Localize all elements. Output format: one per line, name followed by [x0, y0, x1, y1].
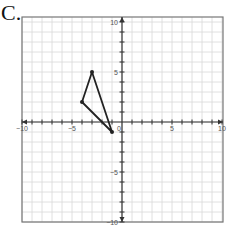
vertex-point [80, 100, 84, 104]
x-tick-label: −5 [68, 125, 76, 132]
vertex-point [90, 70, 94, 74]
y-tick-label: −5 [110, 169, 118, 176]
x-tick-label: 10 [218, 125, 226, 132]
y-axis-arrow-up-icon [120, 17, 125, 22]
x-tick-label: 5 [170, 125, 174, 132]
coordinate-plane: −10−50510105−5−10 [0, 0, 227, 231]
x-axis-arrow-left-icon [22, 120, 27, 125]
y-axis-arrow-down-icon [120, 217, 125, 222]
vertex-point [110, 130, 114, 134]
x-tick-label: 0 [117, 125, 121, 132]
y-tick-label: 5 [114, 69, 118, 76]
y-tick-label: −10 [106, 219, 118, 226]
y-tick-label: 10 [110, 19, 118, 26]
x-tick-label: −10 [16, 125, 28, 132]
